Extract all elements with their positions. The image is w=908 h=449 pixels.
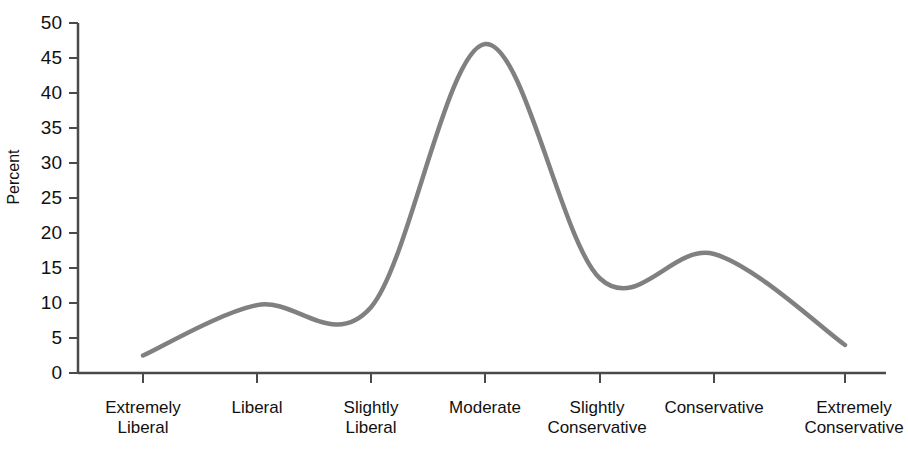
x-tick-label-line: Liberal — [296, 418, 446, 438]
x-tick-label: ExtremelyConservative — [779, 398, 908, 438]
x-tick-label-line: Extremely — [779, 398, 908, 418]
x-tick-label-line: Conservative — [779, 418, 908, 438]
series-line-percent — [143, 44, 845, 356]
x-tick-label-line: Liberal — [68, 418, 218, 438]
x-tick-label-line: Conservative — [639, 398, 789, 418]
x-tick-label-line: Conservative — [522, 418, 672, 438]
x-tick-label: Conservative — [639, 398, 789, 418]
